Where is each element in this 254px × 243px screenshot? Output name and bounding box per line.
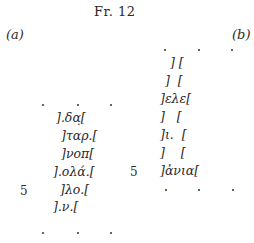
text-line: ]ελε[	[160, 93, 191, 106]
text-line: ]ταρ.[	[61, 130, 97, 143]
lacuna-dot	[198, 189, 200, 191]
lacuna-dot	[232, 189, 234, 191]
column-a-label: (a)	[6, 28, 24, 41]
column-b-label: (b)	[232, 28, 250, 41]
text-line: ]ἀνια[	[160, 165, 199, 178]
line-number: 5	[130, 166, 138, 178]
text-line: ]ι. [	[160, 129, 187, 142]
text-line: ]νοπ[	[61, 148, 94, 161]
lacuna-dot	[164, 49, 166, 51]
text-line: ] [	[165, 75, 183, 88]
text-line: ].ολά.[	[53, 166, 95, 179]
text-line: ]λο.[	[60, 184, 89, 197]
lacuna-dot	[165, 189, 167, 191]
text-line: ] [	[160, 111, 182, 124]
line-number: 5	[20, 185, 28, 197]
text-line: ] [	[160, 147, 186, 160]
text-line: ].δα̣[	[56, 112, 86, 125]
lacuna-dot	[110, 104, 112, 106]
text-line: ].ν.[	[53, 201, 78, 214]
text-line: ] [	[170, 57, 184, 70]
lacuna-dot	[42, 232, 44, 234]
lacuna-dot	[110, 232, 112, 234]
lacuna-dot	[77, 104, 79, 106]
lacuna-dot	[77, 232, 79, 234]
fragment-title: Fr. 12	[94, 5, 136, 18]
lacuna-dot	[231, 49, 233, 51]
lacuna-dot	[42, 104, 44, 106]
lacuna-dot	[198, 49, 200, 51]
